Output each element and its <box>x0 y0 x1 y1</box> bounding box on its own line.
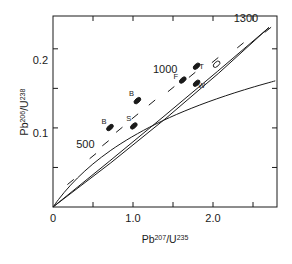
x-axis-sup-2: 235 <box>177 234 189 241</box>
plot-canvas: BBSFTW 50010001300 0 1.0 2.0 0.1 0.2 Pb2… <box>0 0 292 264</box>
x-axis-label: Pb207/U235 <box>142 233 189 245</box>
svg-text:Pb206/U238: Pb206/U238 <box>18 89 30 136</box>
y-axis-sup-2: 238 <box>19 89 26 101</box>
x-axis-base-1: Pb <box>142 233 155 245</box>
concordia-age-tick <box>102 141 108 146</box>
svg-text:Pb207/U235: Pb207/U235 <box>142 233 189 245</box>
concordia-age-tick <box>189 72 195 77</box>
x-tick-label-2: 2.0 <box>205 212 220 224</box>
concordia-age-tick <box>212 58 218 63</box>
x-axis-base-2: U <box>169 233 177 245</box>
discordia-line-upper <box>53 27 269 207</box>
concordia-age-tick <box>116 127 122 132</box>
age-annotation-label: 1000 <box>153 63 177 75</box>
discordia-line-lower <box>53 27 269 207</box>
concordia-age-ticks <box>67 27 271 184</box>
age-annotation-label: 500 <box>76 138 94 150</box>
concordia-age-tick <box>90 153 96 158</box>
x-tick-label-0: 0 <box>50 212 56 224</box>
plot-frame-box <box>53 16 277 207</box>
concordia-age-tick <box>149 100 155 105</box>
concordia-age-tick <box>237 43 243 48</box>
data-point-label: S <box>126 114 131 123</box>
y-tick-labels: 0.1 0.2 <box>33 54 48 139</box>
concordia-age-tick <box>67 179 73 184</box>
data-curves <box>53 27 275 207</box>
x-axis-sup-1: 207 <box>154 234 166 241</box>
concordia-age-tick <box>132 114 138 119</box>
y-axis-base-2: U <box>18 100 30 108</box>
y-axis-base-1: Pb <box>18 122 30 135</box>
data-point-filled <box>133 96 142 105</box>
data-point-label: W <box>198 81 206 90</box>
data-point-label: T <box>199 62 204 71</box>
age-annotations: 50010001300 <box>76 12 258 150</box>
age-annotation-label: 1300 <box>234 12 258 24</box>
y-axis-label: Pb206/U238 <box>18 89 30 136</box>
x-tick-labels: 0 1.0 2.0 <box>50 212 221 224</box>
concordia-diagram-figure: BBSFTW 50010001300 0 1.0 2.0 0.1 0.2 Pb2… <box>0 0 292 264</box>
concordia-age-tick <box>168 86 174 91</box>
x-tick-label-1: 1.0 <box>125 212 140 224</box>
axes-frame <box>53 16 277 207</box>
y-axis-sup-1: 206 <box>19 111 26 123</box>
data-point-filled <box>106 123 115 132</box>
data-point-filled <box>178 76 187 85</box>
data-point-label: B <box>101 117 106 126</box>
y-tick-label-1: 0.1 <box>33 127 48 139</box>
y-tick-label-2: 0.2 <box>33 54 48 66</box>
data-point-label: B <box>129 89 134 98</box>
axis-ticks <box>53 16 277 207</box>
